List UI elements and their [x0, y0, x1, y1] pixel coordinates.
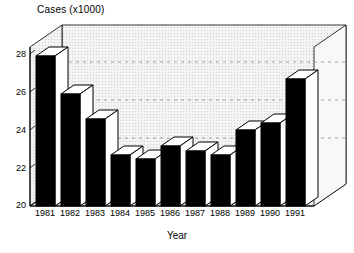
y-tick-label-20: 20: [8, 201, 26, 210]
y-tick-label-28: 28: [8, 50, 26, 59]
chart-plot-area: 28 26 24 22 20 1981 1982 1983 1984 1985 …: [0, 0, 354, 253]
x-tick-label-1991: 1991: [280, 209, 310, 218]
bar-chart: Cases (x1000): [0, 0, 354, 253]
y-tick-label-22: 22: [8, 164, 26, 173]
y-tick-label-24: 24: [8, 126, 26, 135]
chart-x-axis-title: Year: [0, 230, 354, 241]
chart-right-wall: [314, 25, 346, 206]
bar-1991: [286, 70, 318, 206]
y-tick-label-26: 26: [8, 88, 26, 97]
